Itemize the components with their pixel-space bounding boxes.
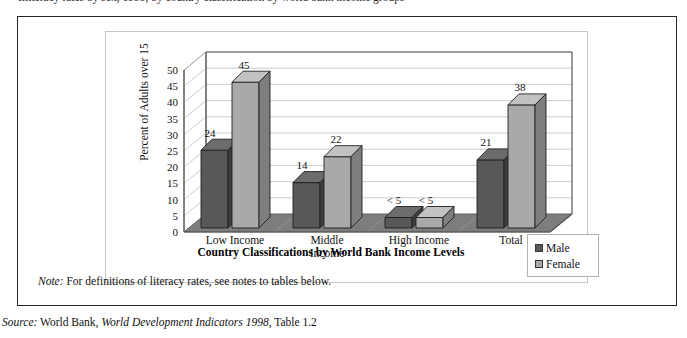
figure-note: Note: For definitions of literacy rates,… (38, 275, 331, 287)
ytick-50: 50 (158, 64, 178, 76)
bar-male-total (477, 160, 504, 228)
figure-source-before: World Bank, (37, 316, 101, 328)
figure-container: 0 5 10 15 20 25 30 35 40 45 50 Percent o… (17, 16, 677, 306)
value-label-female-total: 38 (500, 81, 540, 93)
ytick-35: 35 (158, 113, 178, 125)
value-label-male-middle-income: 14 (282, 159, 322, 171)
ytick-45: 45 (158, 80, 178, 92)
chart-frame: 0 5 10 15 20 25 30 35 40 45 50 Percent o… (105, 31, 588, 283)
legend-item-female[interactable]: Female (535, 256, 598, 272)
value-label-female-middle-income: 22 (316, 133, 356, 145)
legend-item-male[interactable]: Male (535, 240, 598, 256)
ytick-40: 40 (158, 96, 178, 108)
value-label-female-low-income: 45 (224, 59, 264, 71)
bar-female-low-income (232, 82, 259, 228)
y-axis-title: Percent of Adults over 15 (138, 32, 150, 172)
figure-source: Source: World Bank, World Development In… (2, 316, 317, 328)
ytick-15: 15 (158, 177, 178, 189)
ytick-30: 30 (158, 129, 178, 141)
bar-female-middle-income (324, 157, 351, 228)
bar-female-total (508, 105, 535, 228)
legend-label-male: Male (546, 242, 570, 254)
legend-swatch-male-icon (535, 244, 543, 252)
ytick-0: 0 (158, 226, 178, 238)
figure-note-text: For definitions of literacy rates, see n… (64, 275, 332, 287)
bar-female-total-side (535, 94, 546, 228)
clipped-caption-line: Illiteracy rates by sex, 1995, by countr… (18, 0, 658, 4)
figure-source-prefix: Source: (2, 316, 37, 328)
bar-male-middle-income (293, 183, 320, 228)
ytick-10: 10 (158, 194, 178, 206)
value-label-female-high-income: < 5 (406, 194, 446, 206)
bar-female-low-income-side (259, 71, 270, 228)
bar-group-high-income (385, 207, 454, 229)
figure-source-title: World Development Indicators 1998 (101, 316, 268, 328)
ytick-25: 25 (158, 145, 178, 157)
chart-legend: Male Female (527, 234, 599, 277)
value-label-male-total: 21 (466, 136, 506, 148)
figure-note-prefix: Note: (38, 275, 64, 287)
x-axis-title: Country Classifications by World Bank In… (166, 246, 496, 260)
ytick-5: 5 (158, 210, 178, 222)
figure-source-after: , Table 1.2 (269, 316, 317, 328)
bar-female-middle-income-side (351, 146, 362, 228)
value-label-male-low-income: 24 (190, 127, 230, 139)
bar-female-high-income (416, 218, 443, 229)
legend-swatch-female-icon (535, 260, 543, 268)
bar-male-high-income (385, 218, 412, 229)
ytick-20: 20 (158, 161, 178, 173)
bar-male-low-income (201, 150, 228, 228)
legend-label-female: Female (546, 258, 580, 270)
